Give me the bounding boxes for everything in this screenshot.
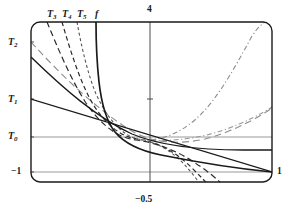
plot-background — [31, 22, 272, 182]
curve-label-f-letter: f — [95, 8, 98, 19]
tick-label-x-top-four: 4 — [147, 5, 152, 15]
curve-label-T2-sub: 2 — [14, 41, 18, 49]
curve-label-T4: T4 — [62, 9, 72, 21]
curve-label-T1-sub: 1 — [14, 98, 18, 106]
curve-label-T1: T1 — [8, 94, 18, 106]
curve-label-T5-sub: 5 — [83, 13, 87, 21]
tick-label-y-neg-one: −1 — [11, 167, 21, 177]
tick-label-y-right-one: 1 — [277, 167, 282, 177]
curve-label-T2: T2 — [8, 37, 18, 49]
curve-label-T3-sub: 3 — [53, 13, 57, 21]
figure-root: T3 T4 T5 f T2 T1 T0 −1 4 −0.5 1 — [0, 0, 292, 216]
curve-label-T3: T3 — [47, 9, 57, 21]
curve-label-f: f — [95, 9, 98, 19]
tick-label-x-bottom-neg-half: −0.5 — [135, 195, 152, 205]
taylor-approximation-plot — [0, 0, 292, 216]
curve-label-T0: T0 — [8, 131, 18, 143]
curve-label-T4-sub: 4 — [68, 13, 72, 21]
curve-label-T5: T5 — [77, 9, 87, 21]
curve-label-T0-sub: 0 — [14, 135, 18, 143]
